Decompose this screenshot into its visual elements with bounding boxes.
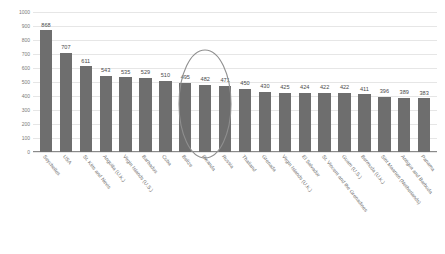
bar-slot: 611 — [76, 12, 96, 152]
bars-layer: 8687076115435355295104954824714504304254… — [33, 12, 437, 152]
bar[interactable] — [378, 97, 390, 152]
bar[interactable] — [60, 53, 72, 152]
bar-slot: 422 — [335, 12, 355, 152]
bar-value-label: 868 — [41, 23, 50, 29]
x-label-slot: Antigua and Barbuda — [394, 153, 414, 253]
bar-value-label: 611 — [81, 59, 90, 65]
bar-value-label: 411 — [360, 87, 369, 93]
x-label-slot: Grenada — [255, 153, 275, 253]
bar-value-label: 383 — [420, 91, 429, 97]
y-tick-label: 100 — [22, 136, 30, 141]
y-tick-label: 600 — [22, 66, 30, 71]
bar[interactable] — [338, 93, 350, 152]
bar[interactable] — [239, 89, 251, 152]
bar-value-label: 389 — [400, 90, 409, 96]
bar-value-label: 450 — [240, 81, 249, 87]
bar[interactable] — [279, 93, 291, 153]
x-label-slot: St. Kitts and Nevis — [76, 153, 96, 253]
bar-value-label: 529 — [141, 70, 150, 76]
bar[interactable] — [179, 83, 191, 152]
bar-value-label: 425 — [280, 85, 289, 91]
x-label-slot: El Salvador — [295, 153, 315, 253]
y-tick-label: 0 — [27, 150, 30, 155]
bar[interactable] — [100, 76, 112, 152]
bar-value-label: 495 — [181, 75, 190, 81]
y-tick-label: 300 — [22, 108, 30, 113]
bar[interactable] — [159, 81, 171, 152]
bar[interactable] — [418, 98, 430, 152]
bar-slot: 411 — [355, 12, 375, 152]
bar-slot: 707 — [56, 12, 76, 152]
bar-value-label: 430 — [260, 84, 269, 90]
bar-value-label: 396 — [380, 89, 389, 95]
x-label-slot: USA — [56, 153, 76, 253]
bar-value-label: 471 — [220, 78, 229, 84]
x-label-slot: Sint Maarten (Netherlands) — [374, 153, 394, 253]
x-label-slot: Belize — [175, 153, 195, 253]
x-label-slot: St. Vincent and the Grenadines — [315, 153, 335, 253]
x-label-slot: Bermuda (U.K.) — [355, 153, 375, 253]
bar-slot: 450 — [235, 12, 255, 152]
x-tick-label: Cuba — [161, 154, 173, 167]
bar-slot: 471 — [215, 12, 235, 152]
x-label-slot: Barbados — [136, 153, 156, 253]
x-tick-label: Belize — [181, 154, 194, 168]
y-tick-label: 700 — [22, 52, 30, 57]
bar-slot: 535 — [116, 12, 136, 152]
x-label-slot: Virgin Islands (U.K.) — [275, 153, 295, 253]
bar[interactable] — [259, 92, 271, 152]
bar-value-label: 543 — [101, 68, 110, 74]
bar-value-label: 422 — [340, 85, 349, 91]
x-label-slot: Panama — [414, 153, 434, 253]
bar-slot: 396 — [374, 12, 394, 152]
bar-value-label: 535 — [121, 70, 130, 76]
plot-area: 01002003004005006007008009001000 8687076… — [33, 12, 437, 152]
bar-value-label: 707 — [61, 45, 70, 51]
bar[interactable] — [398, 98, 410, 152]
bar-value-label: 422 — [320, 85, 329, 91]
x-label-slot: Rwanda — [195, 153, 215, 253]
y-tick-label: 1000 — [19, 10, 30, 15]
bar-slot: 425 — [275, 12, 295, 152]
bar[interactable] — [119, 77, 131, 152]
y-tick-label: 200 — [22, 122, 30, 127]
x-label-slot: Thailand — [235, 153, 255, 253]
x-tick-label: USA — [62, 154, 72, 165]
x-label-slot: Cuba — [155, 153, 175, 253]
bar-slot: 868 — [36, 12, 56, 152]
bar[interactable] — [219, 86, 231, 152]
x-label-slot: Anguilla (U.K.) — [96, 153, 116, 253]
y-tick-label: 400 — [22, 94, 30, 99]
bar-slot: 543 — [96, 12, 116, 152]
x-label-slot: Virgin Islands (U.S.) — [116, 153, 136, 253]
bar-slot: 482 — [195, 12, 215, 152]
bar-value-label: 510 — [161, 73, 170, 79]
bar-slot: 424 — [295, 12, 315, 152]
y-tick-label: 800 — [22, 38, 30, 43]
x-label-slot: Guam (U.S.) — [335, 153, 355, 253]
bar[interactable] — [139, 78, 151, 152]
y-tick-label: 900 — [22, 24, 30, 29]
bar-slot: 430 — [255, 12, 275, 152]
bar-value-label: 424 — [300, 85, 309, 91]
bar-chart: Number of prisoners per 100 000 populati… — [0, 0, 445, 254]
bar[interactable] — [318, 93, 330, 152]
x-tick-label: Russia — [221, 154, 235, 169]
bar[interactable] — [358, 94, 370, 152]
bar-slot: 495 — [175, 12, 195, 152]
bar-slot: 529 — [136, 12, 156, 152]
x-label-slot: Russia — [215, 153, 235, 253]
bar-slot: 510 — [155, 12, 175, 152]
bar-slot: 389 — [394, 12, 414, 152]
bar-slot: 422 — [315, 12, 335, 152]
bar[interactable] — [299, 93, 311, 152]
bar[interactable] — [199, 85, 211, 152]
x-label-slot: Seychelles — [36, 153, 56, 253]
bar-slot: 383 — [414, 12, 434, 152]
x-axis-labels: SeychellesUSASt. Kitts and NevisAnguilla… — [33, 153, 437, 253]
bar[interactable] — [80, 66, 92, 152]
bar-value-label: 482 — [201, 77, 210, 83]
y-tick-label: 500 — [22, 80, 30, 85]
bar[interactable] — [40, 30, 52, 152]
x-tick-label: Panama — [420, 154, 436, 172]
